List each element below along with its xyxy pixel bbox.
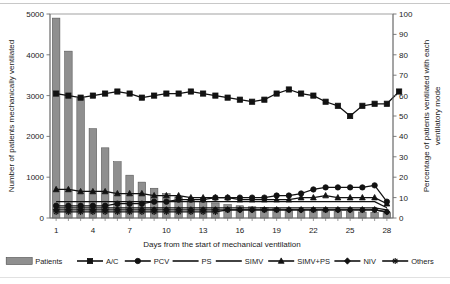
legend-label-Others: Others (411, 257, 434, 266)
point-A/C-day-19 (274, 91, 279, 96)
legend-item-others[interactable]: Others (382, 257, 434, 266)
y-tick-label-right-40: 40 (399, 132, 408, 141)
y-axis-left-title: Number of patients mechanically ventilat… (7, 40, 16, 193)
legend-label-PCV: PCV (154, 257, 169, 266)
y-axis-right-title-line2: ventilatory mode (433, 86, 442, 145)
y-tick-label-right-20: 20 (399, 173, 408, 182)
y-tick-label-left-5000: 5000 (26, 10, 44, 19)
y-tick-label-right-60: 60 (399, 92, 408, 101)
point-A/C-day-15 (225, 95, 230, 100)
y-axis-left: 010002000300040005000 (26, 10, 50, 223)
legend-marker-NIV (344, 258, 350, 264)
point-PCV-day-26 (360, 185, 365, 190)
point-A/C-day-11 (176, 91, 181, 96)
figure-container: 010002000300040005000 010203040506070809… (0, 0, 450, 284)
point-A/C-day-6 (115, 89, 120, 94)
point-A/C-day-3 (78, 95, 83, 100)
y-tick-label-right-100: 100 (399, 10, 413, 19)
point-A/C-day-8 (139, 95, 144, 100)
legend-label-PS: PS (202, 257, 212, 266)
x-tick-label-28: 28 (382, 226, 391, 235)
x-tick-label-16: 16 (235, 226, 244, 235)
point-A/C-day-10 (164, 91, 169, 96)
y-tick-label-right-0: 0 (399, 214, 404, 223)
x-tick-label-25: 25 (346, 226, 355, 235)
point-A/C-day-26 (360, 103, 365, 108)
y-tick-label-left-4000: 4000 (26, 51, 44, 60)
ventilation-modes-chart: 010002000300040005000 010203040506070809… (0, 0, 450, 284)
legend-label-A/C: A/C (106, 257, 119, 266)
y-tick-label-left-0: 0 (40, 214, 45, 223)
x-tick-label-10: 10 (162, 226, 171, 235)
point-A/C-day-27 (372, 101, 377, 106)
y-axis-right: 0102030405060708090100 (393, 10, 413, 223)
legend-swatch-bar (6, 258, 32, 265)
x-axis-title: Days from the start of mechanical ventil… (143, 240, 300, 249)
legend-item-a-c[interactable]: A/C (77, 257, 119, 266)
point-A/C-day-16 (237, 97, 242, 102)
x-tick-label-4: 4 (91, 226, 96, 235)
point-A/C-day-25 (348, 113, 353, 118)
legend-label-Patients: Patients (35, 257, 62, 266)
x-tick-label-19: 19 (272, 226, 281, 235)
y-tick-label-right-70: 70 (399, 71, 408, 80)
figure-caption-cropped (6, 272, 444, 282)
point-PCV-day-27 (372, 183, 377, 188)
y-tick-label-right-80: 80 (399, 51, 408, 60)
y-tick-label-left-2000: 2000 (26, 132, 44, 141)
point-A/C-day-20 (286, 87, 291, 92)
point-PCV-day-22 (311, 187, 316, 192)
y-axis-right-title-group: Percentage of patients ventilated with e… (422, 40, 442, 193)
point-A/C-day-5 (103, 91, 108, 96)
point-A/C-day-13 (201, 91, 206, 96)
point-A/C-day-17 (250, 99, 255, 104)
point-A/C-day-2 (66, 93, 71, 98)
legend-label-NIV: NIV (363, 257, 376, 266)
legend-item-patients[interactable]: Patients (6, 257, 62, 266)
legend-marker-A/C (87, 258, 92, 263)
point-A/C-day-28 (384, 101, 389, 106)
point-A/C-day-24 (335, 103, 340, 108)
chart-legend: PatientsA/CPCVPSSIMVSIMV+PSNIVOthers (6, 257, 434, 266)
x-axis: 14710131619222528 (50, 218, 393, 235)
y-tick-label-left-3000: 3000 (26, 92, 44, 101)
point-A/C-day-22 (311, 93, 316, 98)
point-A/C-day-9 (152, 93, 157, 98)
x-tick-label-13: 13 (199, 226, 208, 235)
x-tick-label-7: 7 (127, 226, 132, 235)
top-divider-rule (0, 3, 450, 4)
legend-label-SIMV: SIMV (245, 257, 263, 266)
y-tick-label-right-50: 50 (399, 112, 408, 121)
y-tick-label-right-90: 90 (399, 30, 408, 39)
point-A/C-day-21 (299, 91, 304, 96)
legend-item-pcv[interactable]: PCV (125, 257, 169, 266)
legend-marker-PCV (135, 258, 140, 263)
legend-item-niv[interactable]: NIV (334, 257, 376, 266)
point-A/C-day-1 (54, 91, 59, 96)
legend-item-simv[interactable]: SIMV (216, 257, 263, 266)
point-A/C-day-14 (213, 93, 218, 98)
bar-patients-day-2 (65, 51, 73, 218)
point-A/C-day-18 (262, 97, 267, 102)
y-tick-label-left-1000: 1000 (26, 173, 44, 182)
x-tick-label-22: 22 (309, 226, 318, 235)
point-A/C-day-4 (90, 93, 95, 98)
legend-item-ps[interactable]: PS (173, 257, 212, 266)
point-PCV-day-23 (323, 185, 328, 190)
y-tick-label-right-30: 30 (399, 153, 408, 162)
y-tick-label-right-10: 10 (399, 194, 408, 203)
point-PCV-day-25 (347, 185, 352, 190)
point-A/C-day-12 (188, 89, 193, 94)
y-axis-right-title-line1: Percentage of patients ventilated with e… (422, 40, 431, 193)
legend-item-simv-ps[interactable]: SIMV+PS (268, 257, 330, 266)
point-A/C-day-7 (127, 91, 132, 96)
point-A/C-day-23 (323, 99, 328, 104)
point-PCV-day-24 (335, 185, 340, 190)
x-tick-label-1: 1 (54, 226, 59, 235)
bar-patients-day-3 (77, 98, 85, 218)
legend-label-SIMV+PS: SIMV+PS (297, 257, 330, 266)
